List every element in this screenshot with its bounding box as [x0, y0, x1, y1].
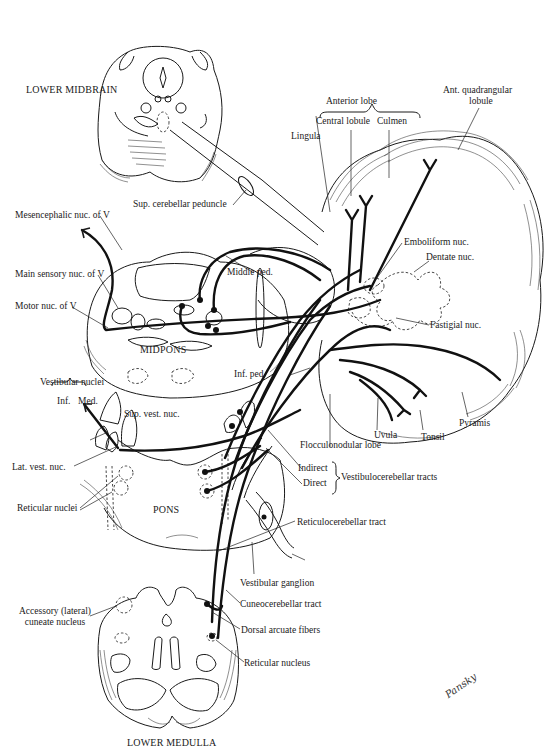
tracts — [82, 160, 500, 639]
section-title-pons: PONS — [153, 504, 179, 515]
label-lat-vest-nuc: Lat. vest. nuc. — [12, 462, 66, 473]
label-accessory-cuneate-nucleus: cuneate nucleus — [18, 617, 92, 628]
label-reticular-nuclei: Reticular nuclei — [17, 503, 77, 514]
label-central-lobule: Central lobule — [316, 116, 370, 127]
label-dorsal-arcuate-fibers: Dorsal arcuate fibers — [241, 625, 320, 636]
label-inf: Inf. — [57, 396, 70, 407]
section-title-midpons: MIDPONS — [140, 344, 186, 355]
label-emboliform-nuc: Emboliform nuc. — [404, 237, 469, 248]
label-ant-quadrangular: Ant. quadrangular — [443, 85, 512, 96]
label-reticular-nucleus: Reticular nucleus — [244, 658, 310, 669]
label-fastigial-nuc: Fastigial nuc. — [430, 320, 481, 331]
label-cuneocerebellar-tract: Cuneocerebellar tract — [240, 599, 322, 610]
lower-midbrain-section — [98, 46, 222, 182]
label-main-sensory-nuc: Main sensory nuc. of V — [15, 269, 104, 280]
label-lingula: Lingula — [291, 131, 321, 142]
label-inf-ped: Inf. ped. — [234, 369, 266, 380]
label-vestibular-nuclei: Vestibular nuclei — [40, 377, 104, 388]
label-vestibulocerebellar-tracts: Vestibulocerebellar tracts — [341, 472, 437, 483]
label-anterior-lobe: Anterior lobe — [326, 96, 377, 107]
label-accessory-cuneate: Accessory (lateral) — [18, 606, 92, 617]
section-title-lower-medulla: LOWER MEDULLA — [127, 737, 217, 748]
lower-medulla-section — [98, 587, 238, 728]
label-sup-cerebellar-peduncle: Sup. cerebellar peduncle — [133, 199, 227, 210]
label-motor-nuc: Motor nuc. of V — [15, 301, 77, 312]
label-vestibular-ganglion: Vestibular ganglion — [240, 578, 314, 589]
label-reticulocerebellar-tract: Reticulocerebellar tract — [297, 517, 386, 528]
label-direct: Direct — [303, 478, 327, 489]
label-ant-quadrangular-lobule: lobule — [469, 96, 493, 107]
label-dentate-nuc: Dentate nuc. — [426, 252, 474, 263]
label-indirect: Indirect — [298, 463, 328, 474]
label-flocculonodular-lobe: Flocculonodular lobe — [300, 440, 381, 451]
cerebellum — [319, 131, 543, 443]
label-tonsil: Tonsil — [421, 432, 445, 443]
label-pyramis: Pyramis — [459, 418, 490, 429]
label-sup-vest-nuc: Sup. vest. nuc. — [124, 409, 180, 420]
cerebellar-pathways-figure: LOWER MIDBRAIN MIDPONS PONS LOWER MEDULL… — [0, 0, 548, 754]
label-med: Med. — [78, 396, 98, 407]
label-culmen: Culmen — [377, 116, 407, 127]
section-title-lower-midbrain: LOWER MIDBRAIN — [26, 84, 117, 95]
label-middle-ped: Middle ped. — [227, 267, 273, 278]
label-mesencephalic-nuc: Mesencephalic nuc. of V — [15, 210, 110, 221]
